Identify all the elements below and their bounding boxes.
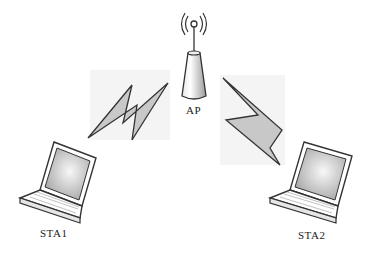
laptop-sta1-icon [18, 140, 98, 225]
wireless-link-bolt-left-icon [80, 50, 190, 150]
laptop-sta2-icon [270, 140, 355, 225]
sta1-label: STA1 [40, 227, 67, 239]
sta2-label: STA2 [298, 229, 325, 241]
